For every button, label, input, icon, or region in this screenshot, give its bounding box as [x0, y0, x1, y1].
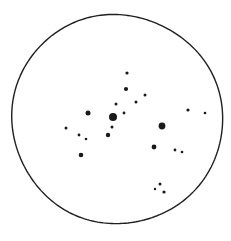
stars-group [65, 71, 207, 193]
star-marker [85, 138, 88, 141]
star-marker [186, 108, 189, 111]
star-marker [125, 71, 128, 74]
star-marker [123, 112, 126, 115]
star-marker [135, 101, 138, 104]
field-circle-group [12, 14, 223, 223]
star-marker [124, 87, 128, 91]
star-marker [159, 123, 166, 130]
star-marker [65, 127, 68, 130]
star-marker [115, 103, 118, 106]
star-marker [111, 126, 114, 129]
star-marker [181, 151, 184, 154]
star-marker [144, 94, 147, 97]
star-marker [159, 183, 162, 186]
star-marker [154, 188, 156, 190]
star-marker [204, 112, 207, 115]
eyepiece-sketch-page [0, 0, 231, 241]
star-marker [162, 190, 165, 193]
star-marker [174, 149, 177, 152]
star-marker [78, 134, 81, 137]
star-marker [79, 153, 84, 158]
star-marker [106, 133, 110, 137]
star-marker [152, 145, 157, 150]
star-marker [109, 113, 117, 121]
star-marker [86, 111, 91, 116]
star-field-canvas [0, 0, 231, 241]
eyepiece-field-circle [12, 14, 223, 223]
